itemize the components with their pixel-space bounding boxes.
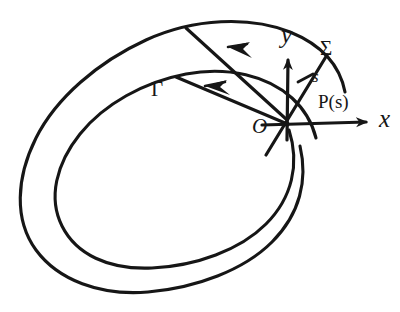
sigma-section-label: Σ [320, 38, 332, 59]
return-point-label: P(s) [318, 92, 349, 111]
origin-point [284, 121, 289, 126]
x-axis-label: x [379, 106, 390, 131]
gamma-orbit-label: Γ [151, 79, 163, 100]
orbit-arrowhead-outer [228, 42, 252, 58]
y-axis-label: y [281, 22, 292, 47]
outer-orbit-inflow [186, 28, 286, 119]
origin-label: O [252, 116, 267, 137]
diagram-canvas [0, 0, 400, 312]
poincare-map-figure: y x O Σ s P(s) Γ [0, 0, 400, 312]
y-axis [287, 60, 288, 140]
outer-orbit-curve [20, 22, 345, 293]
arc-parameter-label: s [312, 68, 319, 85]
x-axis [262, 122, 366, 125]
orbit-arrowhead-inner [205, 80, 230, 95]
